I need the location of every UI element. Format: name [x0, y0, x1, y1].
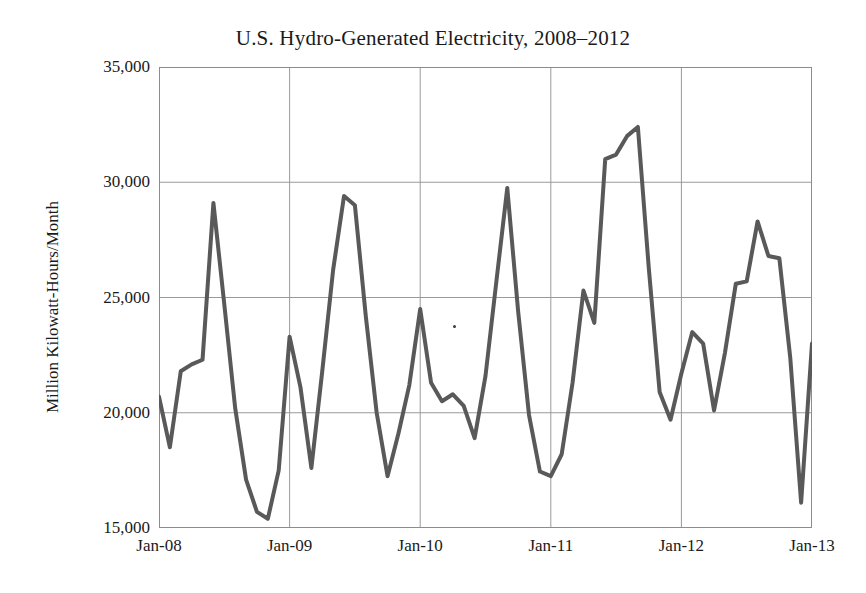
chart-figure: U.S. Hydro-Generated Electricity, 2008–2…: [0, 0, 866, 593]
x-tick-label: Jan-10: [398, 536, 443, 556]
x-tick-label: Jan-13: [789, 536, 834, 556]
line-chart-svg: [159, 67, 812, 528]
y-tick-label: 30,000: [103, 172, 150, 192]
x-tick-label: Jan-12: [659, 536, 704, 556]
data-series-line: [159, 127, 812, 519]
x-tick-label: Jan-09: [267, 536, 312, 556]
grid-lines: [159, 67, 812, 528]
plot-area: 15,00020,00025,00030,00035,000 Jan-08Jan…: [159, 67, 812, 528]
scan-artifact-speck: [453, 325, 456, 328]
y-tick-label: 35,000: [103, 57, 150, 77]
x-tick-label: Jan-08: [136, 536, 181, 556]
y-axis-label: Million Kilowatt-Hours/Month: [43, 157, 63, 457]
chart-title: U.S. Hydro-Generated Electricity, 2008–2…: [0, 26, 866, 51]
y-tick-label: 20,000: [103, 403, 150, 423]
x-tick-label: Jan-11: [528, 536, 573, 556]
y-tick-label: 25,000: [103, 288, 150, 308]
y-tick-label: 15,000: [103, 518, 150, 538]
